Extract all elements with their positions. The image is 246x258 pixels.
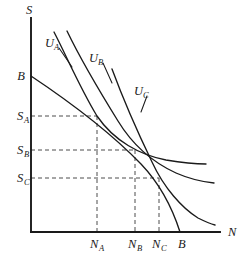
y-tick-b: B <box>17 69 25 83</box>
x-tick-nb-sub: B <box>137 243 142 253</box>
y-tick-sc: S C <box>17 171 30 187</box>
leader-line-ua <box>59 48 72 67</box>
x-tick-nc-sub: C <box>161 243 167 253</box>
curve-uc <box>112 69 215 225</box>
y-axis-title: S <box>26 3 33 17</box>
indifference-curve-figure: S N B S A S B S C N A N <box>0 0 246 258</box>
y-tick-sa-sub: A <box>23 115 30 125</box>
curve-label-ua-sub: A <box>53 42 60 52</box>
y-tick-sb: S B <box>17 143 29 159</box>
x-tick-nb-base: N <box>127 237 137 251</box>
y-tick-sa: S A <box>17 109 30 125</box>
y-tick-sa-base: S <box>17 109 24 123</box>
x-tick-na: N A <box>89 237 105 253</box>
x-tick-na-base: N <box>89 237 99 251</box>
y-tick-sb-base: S <box>17 143 24 157</box>
y-tick-labels: B S A S B S C <box>17 69 30 187</box>
guide-lines <box>31 116 159 232</box>
x-tick-nc: N C <box>151 237 167 253</box>
curve-label-ub-sub: B <box>98 57 103 67</box>
x-tick-nb: N B <box>127 237 142 253</box>
x-tick-b: B <box>178 237 186 251</box>
leader-line-ub <box>103 63 112 83</box>
y-tick-sc-base: S <box>17 171 24 185</box>
curve-label-ub: U B <box>89 51 103 67</box>
axes <box>31 18 220 232</box>
y-tick-sc-sub: C <box>24 177 30 187</box>
y-tick-sb-sub: B <box>24 149 29 159</box>
x-axis-title: N <box>227 225 237 239</box>
curve-label-uc: U C <box>134 84 149 100</box>
x-tick-na-sub: A <box>98 243 105 253</box>
x-tick-nc-base: N <box>151 237 161 251</box>
curve-ua <box>54 32 206 164</box>
curve-label-uc-sub: C <box>143 90 149 100</box>
x-tick-labels: N A N B N C B <box>89 237 186 253</box>
